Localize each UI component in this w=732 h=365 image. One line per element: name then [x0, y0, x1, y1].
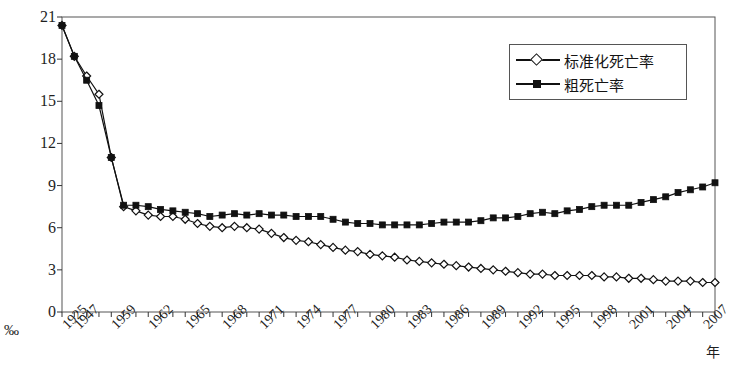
- x-tick-label: 1971: [257, 302, 287, 332]
- legend-label-standardized: 标准化死亡率: [564, 50, 654, 71]
- x-axis-unit-label: 年: [706, 341, 720, 361]
- legend-marker-filled-square-icon: [516, 77, 560, 91]
- legend-label-crude: 粗死亡率: [564, 74, 624, 95]
- x-tick-label: 1968: [220, 302, 250, 332]
- x-tick-label: 1977: [331, 302, 361, 332]
- x-tick-label: 1959: [109, 302, 139, 332]
- legend-item-standardized: 标准化死亡率: [516, 48, 654, 72]
- x-tick-label: 1980: [368, 302, 398, 332]
- x-tick-label: 1983: [405, 302, 435, 332]
- x-tick-label: 1986: [442, 302, 472, 332]
- y-axis-unit-label: ‰: [4, 322, 19, 339]
- x-tick-label: 1965: [183, 302, 213, 332]
- x-tick-label: 2004: [664, 302, 694, 332]
- chart-legend: 标准化死亡率 粗死亡率: [509, 44, 687, 100]
- x-tick-label: 1995: [553, 302, 583, 332]
- x-tick-label: 1992: [516, 302, 546, 332]
- chart-figure: 036912151821 192519471959196219651968197…: [0, 0, 732, 365]
- x-tick-label: 1998: [590, 302, 620, 332]
- x-tick-label: 2007: [701, 302, 731, 332]
- x-tick-label: 1989: [479, 302, 509, 332]
- x-tick-label: 1974: [294, 302, 324, 332]
- x-tick-label: 1962: [146, 302, 176, 332]
- legend-marker-open-diamond-icon: [516, 53, 560, 67]
- legend-item-crude: 粗死亡率: [516, 72, 624, 96]
- x-tick-label: 2001: [627, 302, 657, 332]
